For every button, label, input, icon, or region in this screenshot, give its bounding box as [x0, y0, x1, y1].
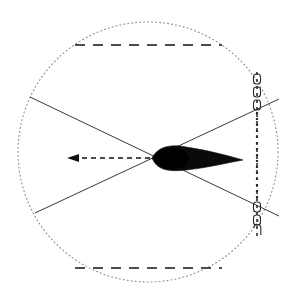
diagram-canvas	[0, 0, 297, 302]
figure-root	[0, 0, 297, 302]
leftward-arrow-head-icon	[67, 154, 79, 162]
dotted-circle-boundary	[18, 22, 278, 282]
